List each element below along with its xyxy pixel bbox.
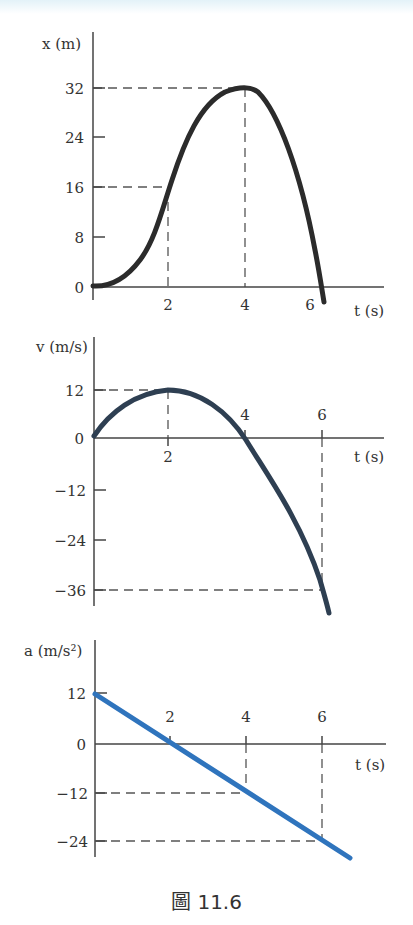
velocity-ytick: 0	[74, 430, 84, 448]
acceleration-line	[95, 694, 350, 858]
acceleration-ytick: 12	[67, 685, 86, 703]
position-ytick: 0	[74, 279, 84, 297]
velocity-y-label: v (m/s)	[35, 338, 88, 356]
acceleration-xtick: 6	[317, 708, 327, 726]
velocity-axes	[94, 337, 384, 606]
velocity-chart: v (m/s) 12 0 −12 −24 −36 2 4 6 t (s)	[35, 337, 384, 613]
position-axes	[93, 32, 384, 300]
position-xtick: 6	[305, 296, 315, 314]
velocity-xtick: 2	[163, 448, 173, 466]
velocity-xtick: 4	[240, 406, 250, 424]
acceleration-xtick: 4	[241, 708, 251, 726]
position-ytick: 8	[74, 229, 84, 247]
position-curve	[93, 88, 324, 302]
figure-caption: 圖 11.6	[0, 886, 413, 915]
velocity-ytick: 12	[65, 382, 84, 400]
position-xtick: 2	[163, 296, 173, 314]
velocity-ytick: −24	[54, 532, 86, 550]
velocity-xtick: 6	[317, 406, 327, 424]
position-y-label: x (m)	[42, 35, 81, 53]
acceleration-ytick: −24	[56, 833, 88, 851]
position-x-label: t (s)	[354, 302, 384, 320]
acceleration-ytick: 0	[76, 736, 86, 754]
position-ytick: 32	[65, 80, 84, 98]
acceleration-x-label: t (s)	[355, 756, 385, 774]
acceleration-y-label: a (m/s²)	[24, 642, 82, 660]
velocity-x-label: t (s)	[354, 448, 384, 466]
velocity-curve	[94, 390, 329, 613]
acceleration-guides	[96, 744, 322, 841]
acceleration-chart: a (m/s²) 12 0 −12 −24 2 4 6 t (s)	[24, 640, 386, 858]
acceleration-ytick: −12	[56, 785, 88, 803]
position-chart: x (m) 32 24 16 8 0 2 4 6 t (s)	[42, 32, 384, 320]
velocity-ytick: −36	[54, 582, 86, 600]
position-xtick: 4	[240, 296, 250, 314]
kinematics-figure: x (m) 32 24 16 8 0 2 4 6 t (s) v (	[0, 0, 413, 925]
velocity-ytick: −12	[54, 482, 86, 500]
position-ytick: 16	[65, 179, 84, 197]
acceleration-axes	[95, 640, 386, 857]
velocity-guides	[94, 390, 322, 590]
acceleration-xtick: 2	[165, 708, 175, 726]
position-ytick: 24	[65, 129, 84, 147]
